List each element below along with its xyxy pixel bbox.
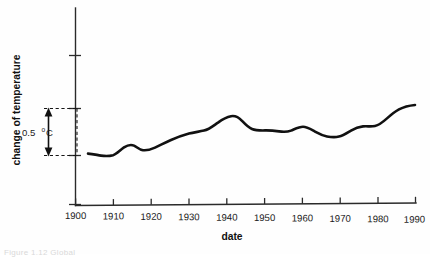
x-axis-title: date	[221, 231, 242, 242]
scale-bar-label: 0.5 o C	[22, 126, 53, 139]
x-tick-label: 1950	[254, 212, 275, 223]
x-axis-line	[76, 203, 417, 206]
x-tick-label: 1940	[216, 212, 237, 223]
y-axis-title: change of temperature	[11, 54, 22, 165]
x-tick-labels: 1900 1910 1920 1930 1940 1950 1960 1970 …	[65, 210, 425, 225]
x-tick-label: 1980	[367, 213, 388, 224]
axes-group	[76, 8, 417, 206]
x-tick-label: 1970	[329, 213, 350, 224]
scale-value-text: 0.5	[22, 127, 35, 138]
x-tick-label: 1900	[65, 210, 86, 221]
celsius-unit-text: C	[46, 127, 53, 138]
x-tick-label: 1930	[178, 211, 199, 222]
x-tick-label: 1990	[404, 214, 425, 225]
temperature-anomaly-curve	[88, 105, 415, 156]
figure-caption-fragment: Figure 1.12 Global	[4, 248, 75, 257]
x-tick-label: 1910	[103, 210, 124, 221]
x-tick-label: 1960	[292, 212, 313, 223]
x-tick-label: 1920	[140, 211, 161, 222]
degree-symbol: o	[42, 126, 46, 133]
